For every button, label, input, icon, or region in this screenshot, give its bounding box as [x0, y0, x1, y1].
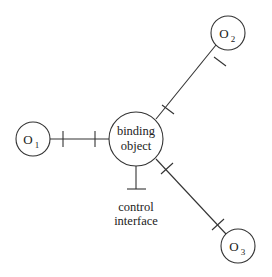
object-node-o1: O 1 [16, 122, 50, 156]
binding-object-node: binding object [109, 112, 163, 166]
binding-object-label-line2: object [121, 139, 152, 153]
o3-subscript: 3 [241, 247, 246, 257]
binding-object-diagram: control interface binding object O 1 O 2… [0, 0, 272, 277]
binding-object-label-line1: binding [117, 124, 156, 138]
o2-subscript: 2 [231, 34, 236, 44]
object-node-o2: O 2 [211, 16, 245, 50]
o1-subscript: 1 [35, 140, 40, 150]
control-interface: control interface [114, 166, 158, 228]
o2-label: O [219, 26, 228, 41]
o3-label: O [229, 239, 238, 254]
o1-label: O [23, 132, 32, 147]
interface-tick-binding-o3 [161, 163, 173, 174]
edge-o1-binding [50, 131, 109, 147]
interface-tick-o2 [214, 57, 226, 66]
control-interface-label-line1: control [118, 200, 154, 214]
object-node-o3: O 3 [221, 229, 255, 263]
control-interface-label-line2: interface [114, 214, 158, 228]
edge-o3-binding [156, 159, 226, 234]
edge-o2-binding [156, 45, 226, 119]
